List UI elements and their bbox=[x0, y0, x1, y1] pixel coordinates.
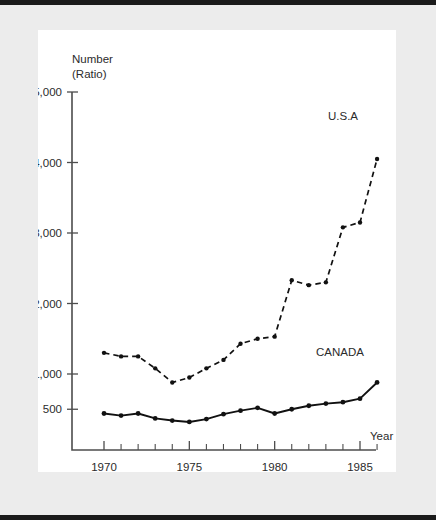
data-point bbox=[358, 220, 362, 224]
data-point bbox=[170, 380, 174, 384]
data-point bbox=[255, 337, 259, 341]
chart-panel: 5001,0002,0003,0004,0005,000 19701975198… bbox=[38, 30, 396, 472]
data-point bbox=[187, 420, 192, 425]
line-chart: 5001,0002,0003,0004,0005,000 19701975198… bbox=[38, 30, 396, 472]
series-label-canada: CANADA bbox=[316, 346, 364, 358]
data-point bbox=[306, 403, 311, 408]
axis-lines bbox=[72, 92, 376, 450]
data-point bbox=[136, 354, 140, 358]
series-line-canada bbox=[104, 382, 377, 421]
data-point bbox=[272, 334, 276, 338]
data-point bbox=[119, 354, 123, 358]
data-point bbox=[323, 401, 328, 406]
y-tick-label: 4,000 bbox=[38, 157, 62, 169]
y-axis-title-line1: Number bbox=[72, 53, 113, 65]
x-tick-label: 1975 bbox=[177, 461, 203, 472]
chart-axes bbox=[72, 92, 376, 450]
y-tick-label: 500 bbox=[43, 403, 62, 415]
data-point bbox=[375, 157, 379, 161]
data-point bbox=[341, 225, 345, 229]
data-point bbox=[119, 413, 124, 418]
data-point bbox=[102, 411, 107, 416]
data-point bbox=[341, 400, 346, 405]
data-point bbox=[153, 416, 158, 421]
data-point bbox=[358, 396, 363, 401]
y-tick-label: 1,000 bbox=[38, 368, 62, 380]
data-point bbox=[204, 366, 208, 370]
data-point bbox=[238, 341, 242, 345]
data-point bbox=[170, 418, 175, 423]
series-label-usa: U.S.A bbox=[328, 110, 358, 122]
y-tick-label: 2,000 bbox=[38, 298, 62, 310]
y-axis-title-line2: (Ratio) bbox=[72, 68, 107, 80]
figure-container: 5001,0002,0003,0004,0005,000 19701975198… bbox=[0, 5, 436, 515]
data-point bbox=[238, 408, 243, 413]
data-point bbox=[255, 405, 260, 410]
data-point bbox=[375, 380, 380, 385]
data-point bbox=[136, 411, 141, 416]
data-point bbox=[221, 412, 226, 417]
data-point bbox=[221, 358, 225, 362]
y-axis-tick-labels: 5001,0002,0003,0004,0005,000 bbox=[38, 86, 62, 415]
x-axis-ticks bbox=[104, 441, 377, 450]
data-point bbox=[289, 407, 294, 412]
x-axis-tick-labels: 1970197519801985 bbox=[91, 461, 373, 472]
data-point bbox=[272, 411, 277, 416]
data-point bbox=[153, 366, 157, 370]
y-tick-label: 5,000 bbox=[38, 86, 62, 98]
x-tick-label: 1985 bbox=[347, 461, 373, 472]
data-point bbox=[324, 280, 328, 284]
data-point bbox=[102, 351, 106, 355]
y-tick-label: 3,000 bbox=[38, 227, 62, 239]
x-tick-label: 1970 bbox=[91, 461, 117, 472]
data-series-group bbox=[102, 157, 380, 425]
data-point bbox=[307, 283, 311, 287]
bottom-divider-rule bbox=[0, 515, 436, 520]
data-point bbox=[187, 375, 191, 379]
data-point bbox=[290, 278, 294, 282]
x-axis-title: Year bbox=[370, 430, 393, 442]
data-point bbox=[204, 417, 209, 422]
x-tick-label: 1980 bbox=[262, 461, 288, 472]
